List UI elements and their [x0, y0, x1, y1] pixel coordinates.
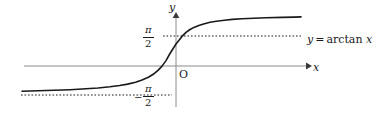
origin-label: O — [179, 69, 188, 80]
plot-canvas — [0, 0, 382, 117]
tick-label-negative-pi-over-two: − π 2 — [143, 84, 154, 108]
y-axis-label: y — [169, 2, 175, 13]
x-axis-label: x — [313, 62, 319, 73]
curve-equation-label: y=arctan x — [307, 34, 372, 45]
tick-upper-numerator: π — [143, 25, 154, 36]
tick-lower-minus-sign: − — [134, 93, 142, 104]
tick-upper-denominator: 2 — [143, 39, 154, 50]
arctan-graph-figure: y x O y=arctan x π 2 − π 2 — [0, 0, 382, 117]
tick-lower-denominator: 2 — [143, 98, 154, 109]
curve-label-function: arctan — [326, 33, 362, 46]
curve-label-variable: x — [366, 33, 372, 46]
curve-label-equals: = — [313, 33, 326, 46]
tick-lower-numerator: π — [143, 84, 154, 95]
arctan-curve — [22, 17, 301, 91]
x-axis-arrowhead — [306, 63, 312, 70]
tick-label-pi-over-two: π 2 — [143, 25, 154, 49]
